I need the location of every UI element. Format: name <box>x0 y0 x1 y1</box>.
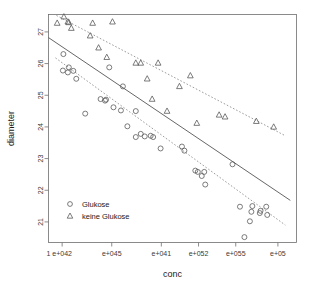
y-tick-label: 23 <box>37 155 44 163</box>
y-tick-label: 22 <box>37 186 44 194</box>
y-tick-label: 25 <box>37 91 44 99</box>
figure-canvas: 27262524232221 1e+042e+045e+041e+052e+05… <box>0 0 315 293</box>
y-tick-label: 26 <box>37 60 44 68</box>
x-tick-label: e+055 <box>226 250 246 257</box>
y-axis-title: diameter <box>6 111 16 146</box>
x-tick-label: e+05 <box>270 250 286 257</box>
x-axis-title: conc <box>163 269 183 279</box>
x-tick-label: 1 <box>47 250 51 257</box>
x-tick-label: e+041 <box>152 250 172 257</box>
x-tick-label: e+045 <box>102 250 122 257</box>
scatterplot-figure: 27262524232221 1e+042e+045e+041e+052e+05… <box>0 0 315 293</box>
x-tick-label: e+052 <box>189 250 209 257</box>
y-tick-label: 21 <box>37 218 44 226</box>
y-tick-label: 24 <box>37 123 44 131</box>
legend-label: Glukose <box>82 200 110 209</box>
x-tick-label: e+042 <box>52 250 72 257</box>
y-tick-label: 27 <box>37 28 44 36</box>
legend-label: keine Glukose <box>82 212 130 221</box>
